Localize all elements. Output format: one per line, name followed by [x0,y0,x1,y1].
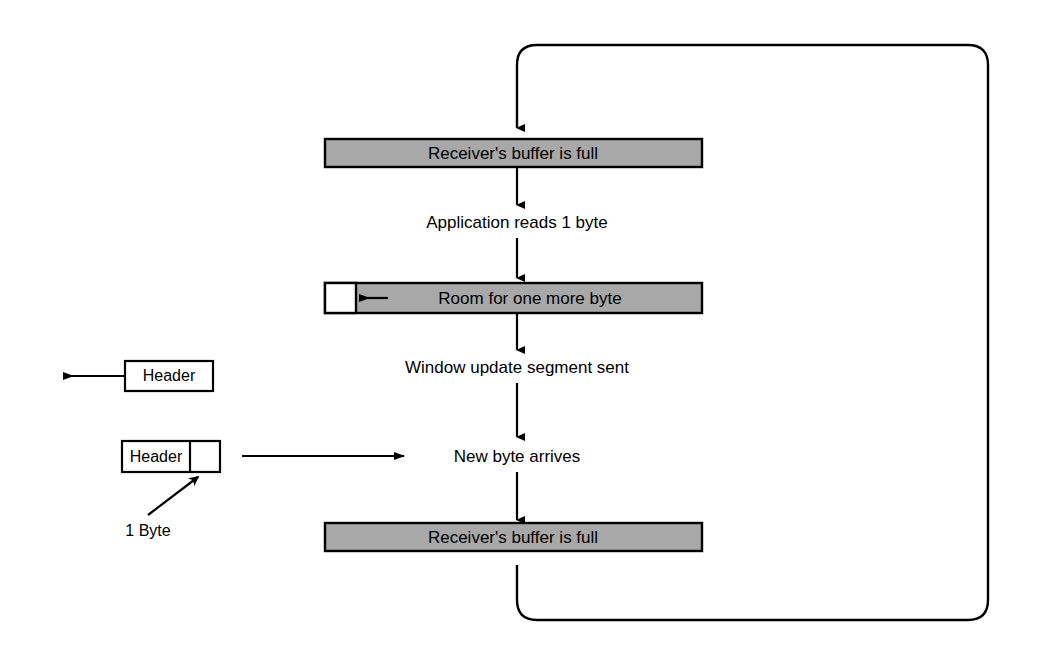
step-new-byte-label: New byte arrives [454,448,581,465]
diagram-canvas [0,0,1040,669]
step-application-reads-label: Application reads 1 byte [426,214,607,231]
silly-window-syndrome-diagram: Receiver's buffer is full Application re… [0,0,1040,669]
buffer-room-label: Room for one more byte [438,290,621,307]
buffer-full-top-label: Receiver's buffer is full [428,145,598,162]
segment-outgoing-label: Header [143,368,195,384]
step-window-update-label: Window update segment sent [405,359,629,376]
annotation-one-byte-label: 1 Byte [125,523,170,539]
buffer-full-bottom-label: Receiver's buffer is full [428,529,598,546]
segment-incoming-label: Header [130,449,182,465]
